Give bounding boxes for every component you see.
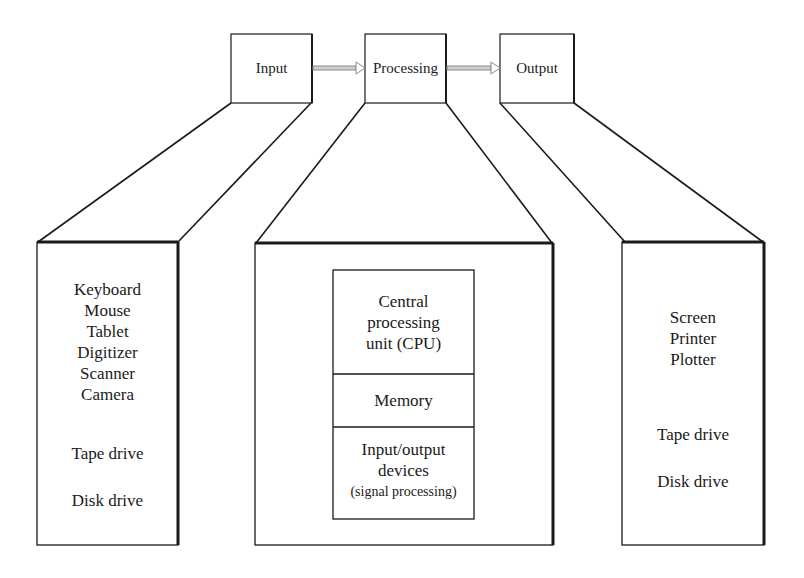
output-device-list: Screen Printer Plotter [622, 307, 764, 370]
list-item: Tape drive [37, 442, 178, 466]
list-item: Plotter [622, 349, 764, 370]
list-item: Disk drive [622, 470, 764, 494]
output-label: Output [500, 58, 574, 78]
io-note: (signal processing) [333, 481, 474, 502]
list-item: Mouse [37, 300, 178, 321]
input-storage-list: Tape drive Disk drive [37, 442, 178, 513]
arrow-input-to-processing [313, 62, 365, 74]
list-item: Keyboard [37, 279, 178, 300]
input-device-list: Keyboard Mouse Tablet Digitizer Scanner … [37, 279, 178, 405]
io-cell: Input/output devices (signal processing) [333, 439, 474, 502]
cpu-line: Central [333, 291, 474, 312]
list-item: Printer [622, 328, 764, 349]
memory-cell: Memory [333, 390, 474, 411]
list-item: Screen [622, 307, 764, 328]
cpu-line: unit (CPU) [333, 333, 474, 354]
list-item: Disk drive [37, 489, 178, 513]
processing-label: Processing [365, 58, 446, 78]
cpu-cell: Central processing unit (CPU) [333, 291, 474, 354]
list-item: Tablet [37, 321, 178, 342]
output-storage-list: Tape drive Disk drive [622, 423, 764, 494]
arrow-processing-to-output [447, 62, 500, 74]
input-label: Input [231, 58, 312, 78]
list-item: Digitizer [37, 342, 178, 363]
io-line: devices [333, 460, 474, 481]
list-item: Camera [37, 384, 178, 405]
list-item: Tape drive [622, 423, 764, 447]
io-line: Input/output [333, 439, 474, 460]
output-devices-box [622, 242, 764, 545]
cpu-line: processing [333, 312, 474, 333]
list-item: Scanner [37, 363, 178, 384]
